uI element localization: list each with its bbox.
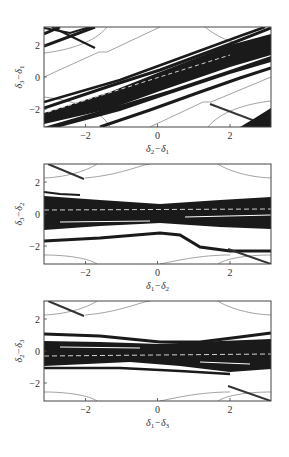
plot-area: [44, 27, 271, 128]
phase-plot-1: −2 0 2 2 0 −2 δ2−δ1 δ3−δ1: [0, 0, 289, 155]
x-axis-label: δ1−δ3: [146, 417, 170, 429]
y-tick-label: 2: [35, 314, 40, 325]
y-axis-label: δ3−δ2: [13, 202, 26, 226]
y-tick-label: −2: [29, 104, 40, 115]
phase-plot-2-svg: −2 0 2 2 0 −2 δ1−δ2 δ3−δ2: [0, 137, 289, 292]
y-tick-label: −2: [29, 378, 40, 389]
trajectory-bands: [44, 301, 271, 401]
y-axis-label: δ3−δ1: [13, 65, 26, 89]
trajectory-bands: [44, 27, 271, 128]
phase-plot-2: −2 0 2 2 0 −2 δ1−δ2 δ3−δ2: [0, 137, 289, 292]
x-tick-label: 2: [228, 404, 233, 415]
y-tick-label: 0: [35, 72, 40, 83]
y-tick-label: 2: [35, 40, 40, 51]
y-tick-label: 2: [35, 177, 40, 188]
phase-plot-3-svg: −2 0 2 2 0 −2 δ1−δ3 δ2−δ3: [0, 274, 289, 429]
phase-plot-3: −2 0 2 2 0 −2 δ1−δ3 δ2−δ3: [0, 274, 289, 429]
plot-area: [44, 164, 271, 264]
trajectory-bands: [44, 164, 271, 264]
y-tick-label: 0: [35, 209, 40, 220]
y-tick-label: 0: [35, 346, 40, 357]
y-axis-label: δ2−δ3: [13, 339, 26, 363]
y-tick-label: −2: [29, 241, 40, 252]
x-tick-label: 0: [155, 404, 160, 415]
plot-area: [44, 301, 271, 401]
phase-plot-1-svg: −2 0 2 2 0 −2 δ2−δ1 δ3−δ1: [0, 0, 289, 155]
x-tick-label: −2: [80, 404, 91, 415]
